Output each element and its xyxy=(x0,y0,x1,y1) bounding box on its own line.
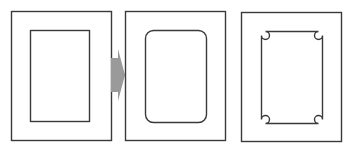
panel-rounded-corners xyxy=(126,12,226,141)
panel-square-corners xyxy=(12,12,112,141)
panel-notched-corners xyxy=(242,13,342,142)
inner-frame-notched xyxy=(262,32,323,124)
arrow-right-icon xyxy=(111,49,125,101)
inner-frame xyxy=(31,31,90,122)
diagram-canvas xyxy=(0,0,350,151)
inner-frame-rounded xyxy=(146,31,207,123)
